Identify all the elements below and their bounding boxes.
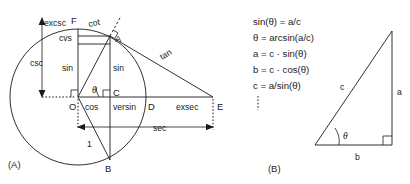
measure-csc-arrowhead-bottom	[39, 90, 46, 98]
label-radius-one: 1	[87, 139, 92, 149]
panel-b-label: (B)	[268, 163, 281, 174]
label-theta-a: θ	[92, 85, 97, 95]
point-label-A: A	[115, 33, 122, 44]
point-label-C: C	[113, 87, 120, 98]
label-sin-right: sin	[113, 63, 124, 73]
panel-a-label: (A)	[8, 159, 21, 170]
triangle-label-c: c	[340, 82, 345, 92]
label-versin: versin	[113, 102, 136, 112]
measure-sec-arrowhead-left	[77, 124, 85, 131]
label-cvs: cvs	[59, 33, 72, 43]
segment-tan-AE	[110, 36, 213, 97]
right-triangle	[315, 31, 392, 145]
right-angle-marker-C	[103, 90, 110, 97]
label-excsc: excsc	[44, 18, 67, 28]
measure-sec-arrowhead-right	[206, 124, 214, 131]
equation-2: a = c · sin(θ)	[253, 48, 307, 59]
equation-4: c = a/sin(θ)	[253, 80, 301, 91]
label-cot: cot	[87, 17, 101, 29]
triangle-label-theta: θ	[343, 131, 348, 141]
triangle-label-b: b	[355, 152, 360, 162]
point-label-E: E	[217, 101, 223, 112]
label-cos: cos	[85, 102, 98, 112]
point-label-D: D	[148, 101, 155, 112]
label-sin-left: sin	[62, 63, 73, 73]
point-label-F: F	[71, 15, 77, 26]
equation-0: sin(θ) = a/c	[253, 16, 301, 27]
triangle-label-a: a	[397, 87, 402, 97]
equation-3: b = c · cos(θ)	[253, 64, 309, 75]
label-tan: tan	[158, 47, 174, 62]
right-angle-marker-triangle	[383, 136, 392, 145]
angle-arc-theta-b	[335, 128, 339, 145]
right-angle-marker-O	[71, 90, 78, 97]
label-csc: csc	[30, 58, 44, 68]
label-exsec: exsec	[176, 102, 199, 112]
label-sec: sec	[153, 123, 167, 133]
trigonometry-figure: F A O B C D E excsc cot cvs csc sin sin …	[0, 0, 410, 184]
point-label-O: O	[69, 101, 76, 112]
equation-1: θ = arcsin(a/c)	[253, 32, 314, 43]
figure-canvas: F A O B C D E excsc cot cvs csc sin sin …	[0, 0, 410, 184]
point-label-B: B	[105, 163, 111, 174]
